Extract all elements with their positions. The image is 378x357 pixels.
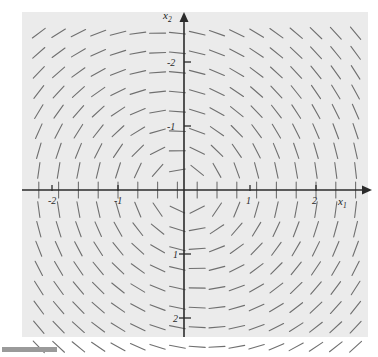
x-tick-label: -2 [48, 195, 56, 206]
slope-segment [289, 343, 303, 351]
y-tick-label: 1 [173, 249, 178, 260]
slope-segment [309, 342, 322, 351]
page-edge-artifact [2, 347, 57, 352]
y-tick-label: -2 [167, 57, 175, 68]
x-axis-label-subscript: 1 [343, 201, 347, 210]
direction-field-canvas: -2-11221-1-2 x1 x2 [0, 0, 378, 357]
direction-field-figure: -2-11221-1-2 x1 x2 [0, 0, 378, 357]
slope-segment [150, 53, 166, 54]
slope-segment [72, 342, 84, 352]
y-axis-label-subscript: 2 [168, 15, 172, 24]
x-tick-label: 2 [312, 195, 317, 206]
slope-segment [330, 342, 343, 352]
slope-segment [170, 345, 186, 348]
slope-segment [269, 344, 284, 350]
y-tick-label: -1 [167, 121, 175, 132]
slope-segment [249, 345, 264, 350]
x-tick-label: 1 [246, 195, 251, 206]
slope-segment [111, 343, 125, 351]
y-tick-label: 2 [173, 313, 178, 324]
slope-segment [229, 345, 245, 348]
slope-segment [150, 344, 165, 349]
slope-segment [189, 307, 205, 308]
slope-segment [130, 344, 145, 350]
x-tick-label: -1 [114, 195, 122, 206]
slope-segment [209, 346, 225, 347]
slope-segment [92, 342, 105, 351]
slope-segment [350, 341, 362, 352]
slope-segment [189, 346, 205, 347]
